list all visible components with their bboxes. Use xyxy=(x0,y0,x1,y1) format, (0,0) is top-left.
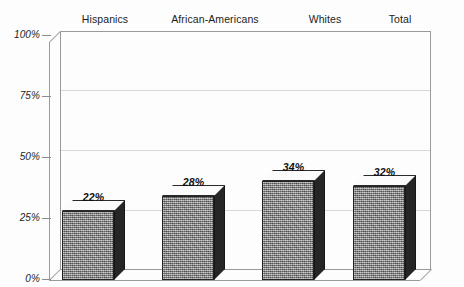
value-label-hispanics: 22% xyxy=(62,191,125,203)
bar-hispanics xyxy=(62,200,136,280)
bar-whites xyxy=(262,170,336,280)
category-label-hispanics: Hispanics xyxy=(50,13,160,25)
bar-side-face-total xyxy=(405,175,416,280)
value-label-total: 32% xyxy=(353,166,416,178)
gridline-50 xyxy=(61,150,430,151)
bar-total xyxy=(353,175,427,280)
axis-back-wall-top xyxy=(60,31,431,32)
axis-back-wall-right xyxy=(430,31,431,269)
bar-side-face-african-americans xyxy=(214,185,225,280)
gridline-75 xyxy=(61,90,430,91)
y-tick-25 xyxy=(42,218,51,219)
y-tick-100 xyxy=(42,35,51,36)
value-label-whites: 34% xyxy=(262,161,325,173)
y-axis-label-0: 0% xyxy=(0,273,40,284)
bar-front-face-whites xyxy=(262,181,314,280)
bar-african-americans xyxy=(162,185,236,280)
bar-side-face-whites xyxy=(314,170,325,280)
axis-depth-diagonal-top xyxy=(49,31,61,43)
y-tick-75 xyxy=(42,96,51,97)
y-axis-label-25: 25% xyxy=(0,212,40,223)
y-tick-50 xyxy=(42,157,51,158)
bar-front-face-african-americans xyxy=(162,196,214,280)
y-tick-0 xyxy=(42,279,51,280)
bar-side-face-hispanics xyxy=(114,200,125,280)
value-label-african-americans: 28% xyxy=(162,176,225,188)
bar-front-face-total xyxy=(353,186,405,280)
y-axis-label-50: 50% xyxy=(0,151,40,162)
axis-front-vertical xyxy=(49,42,50,280)
bar-front-face-hispanics xyxy=(62,211,114,280)
bar-chart: 100% 75% 50% 25% 0% Hispanics African-Am… xyxy=(0,0,464,287)
axis-floor-front xyxy=(49,280,420,281)
category-label-total: Total xyxy=(350,13,450,25)
y-axis-label-75: 75% xyxy=(0,90,40,101)
y-axis-label-100: 100% xyxy=(0,29,40,40)
category-label-african-americans: African-Americans xyxy=(150,13,280,25)
